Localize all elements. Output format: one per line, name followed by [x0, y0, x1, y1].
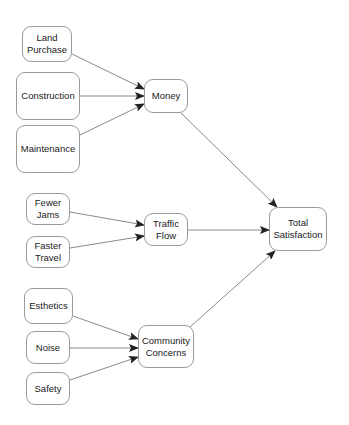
node-community-concerns[interactable]: Community Concerns [138, 325, 194, 368]
edge-faster-travel-to-traffic-flow [70, 236, 144, 248]
node-label: Construction [21, 90, 74, 102]
edge-fewer-jams-to-traffic-flow [70, 212, 144, 225]
edge-community-concerns-to-total-satisfaction [190, 251, 275, 327]
node-money[interactable]: Money [144, 79, 188, 113]
node-total-satisfaction[interactable]: Total Satisfaction [269, 207, 327, 251]
node-noise[interactable]: Noise [26, 331, 70, 364]
node-label: Community Concerns [142, 335, 190, 359]
node-maintenance[interactable]: Maintenance [16, 125, 80, 173]
influence-diagram: Land PurchaseConstructionMaintenanceMone… [0, 0, 349, 425]
node-label: Faster Travel [35, 240, 62, 264]
node-faster-travel[interactable]: Faster Travel [26, 236, 70, 268]
node-label: Maintenance [21, 143, 75, 155]
node-label: Traffic Flow [153, 218, 179, 242]
node-label: Land Purchase [27, 32, 67, 56]
node-label: Noise [36, 342, 60, 354]
node-esthetics[interactable]: Esthetics [24, 288, 73, 324]
node-safety[interactable]: Safety [26, 372, 70, 405]
node-traffic-flow[interactable]: Traffic Flow [144, 213, 188, 246]
edge-maintenance-to-money [80, 104, 144, 135]
edge-esthetics-to-community-concerns [73, 316, 138, 339]
edge-land-purchase-to-money [72, 54, 144, 89]
node-label: Money [152, 90, 181, 102]
edge-money-to-total-satisfaction [181, 113, 277, 207]
node-label: Safety [35, 383, 62, 395]
node-label: Fewer Jams [35, 197, 61, 221]
edge-safety-to-community-concerns [70, 357, 138, 380]
node-label: Total Satisfaction [273, 217, 322, 241]
node-construction[interactable]: Construction [16, 72, 80, 120]
node-fewer-jams[interactable]: Fewer Jams [26, 193, 70, 225]
node-land-purchase[interactable]: Land Purchase [22, 26, 72, 62]
node-label: Esthetics [29, 300, 68, 312]
